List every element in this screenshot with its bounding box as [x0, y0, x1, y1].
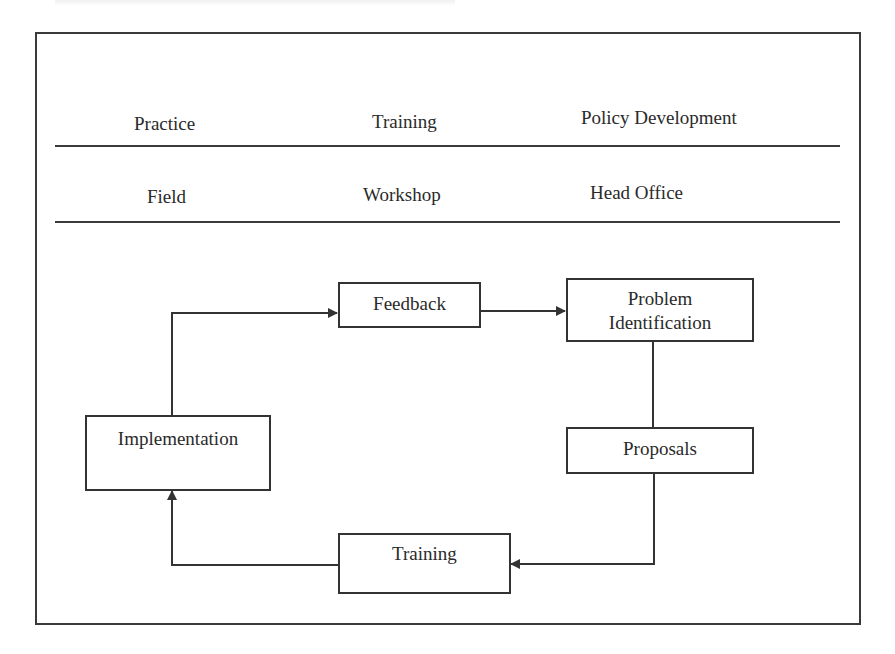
- node-feedback: Feedback: [338, 282, 481, 328]
- node-proposals-label: Proposals: [623, 438, 697, 459]
- node-implementation: Implementation: [85, 415, 271, 491]
- node-training-label: Training: [392, 543, 457, 564]
- node-problem-identification-label-1: Problem: [568, 287, 752, 311]
- node-implementation-label: Implementation: [118, 428, 238, 449]
- node-feedback-label: Feedback: [373, 293, 446, 314]
- node-proposals: Proposals: [566, 427, 754, 474]
- node-problem-identification-label-2: Identification: [568, 311, 752, 335]
- node-training: Training: [338, 533, 511, 594]
- node-problem-identification: Problem Identification: [566, 278, 754, 342]
